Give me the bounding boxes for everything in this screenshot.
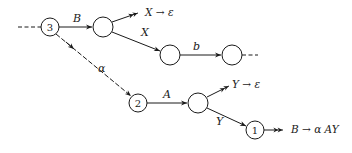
state-diagram: B X → ε X b α A Y → ε Y B → α AY 3 2	[0, 0, 352, 153]
node-2: 2	[129, 94, 147, 112]
reduction-b-rule: B → α AY	[290, 123, 340, 135]
node-1-label: 1	[252, 125, 258, 136]
edge-label-Y: Y	[216, 115, 225, 128]
reduction-x-eps: X → ε	[144, 6, 174, 18]
edge-Y	[207, 108, 246, 126]
node-3-label: 3	[47, 22, 53, 33]
edge-label-B: B	[72, 12, 81, 25]
reduce-edge-y-eps	[207, 86, 229, 97]
node-2-label: 2	[135, 98, 141, 109]
reduction-y-eps: Y → ε	[232, 78, 260, 90]
edge-label-X: X	[140, 26, 150, 39]
node-after-b	[222, 45, 242, 65]
edge-label-b: b	[193, 40, 200, 53]
node-after-X	[160, 45, 180, 65]
node-3: 3	[41, 18, 59, 36]
node-1: 1	[246, 121, 264, 139]
edge-label-alpha: α	[98, 62, 106, 75]
reduce-edge-x-eps	[112, 13, 138, 22]
edge-label-A: A	[162, 88, 171, 101]
node-after-A	[188, 93, 208, 113]
node-after-B	[93, 17, 113, 37]
edge-alpha-midarrow	[66, 42, 74, 49]
edge-X	[112, 32, 160, 51]
